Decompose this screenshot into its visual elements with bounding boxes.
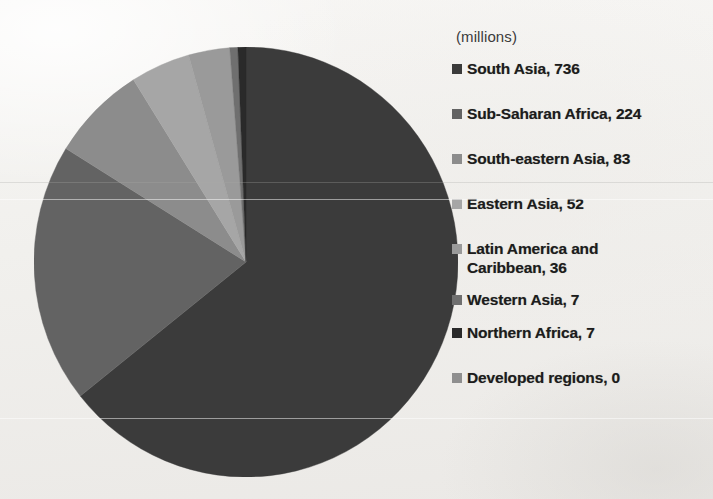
legend-item-south-asia[interactable]: South Asia, 736 bbox=[452, 60, 713, 79]
legend-units-label: (millions) bbox=[456, 28, 713, 45]
legend-item-label: Developed regions, 0 bbox=[467, 369, 620, 388]
legend-item-label: Eastern Asia, 52 bbox=[467, 195, 584, 214]
legend-swatch-icon bbox=[452, 109, 462, 119]
legend-swatch-icon bbox=[452, 244, 462, 254]
chart-legend: (millions) South Asia, 736Sub-Saharan Af… bbox=[452, 28, 713, 388]
legend-swatch-icon bbox=[452, 199, 462, 209]
legend-item-eastern-asia[interactable]: Eastern Asia, 52 bbox=[452, 195, 713, 214]
legend-rows: South Asia, 736Sub-Saharan Africa, 224So… bbox=[452, 60, 713, 388]
pie-chart-page: (millions) South Asia, 736Sub-Saharan Af… bbox=[0, 0, 713, 499]
legend-swatch-icon bbox=[452, 64, 462, 74]
legend-swatch-icon bbox=[452, 295, 462, 305]
legend-item-sub-saharan-africa[interactable]: Sub-Saharan Africa, 224 bbox=[452, 105, 713, 124]
legend-swatch-icon bbox=[452, 373, 462, 383]
legend-item-latin-america-and-caribbean[interactable]: Latin America and Caribbean, 36 bbox=[452, 240, 713, 278]
legend-item-label: Western Asia, 7 bbox=[467, 291, 579, 310]
pie-slices bbox=[34, 47, 458, 477]
legend-item-northern-africa[interactable]: Northern Africa, 7 bbox=[452, 324, 713, 343]
legend-item-developed-regions[interactable]: Developed regions, 0 bbox=[452, 369, 713, 388]
legend-swatch-icon bbox=[452, 154, 462, 164]
legend-item-label: Northern Africa, 7 bbox=[467, 324, 595, 343]
legend-item-label: South Asia, 736 bbox=[467, 60, 580, 79]
legend-item-label: Latin America and Caribbean, 36 bbox=[467, 240, 598, 278]
legend-item-label: South-eastern Asia, 83 bbox=[467, 150, 630, 169]
pie-svg bbox=[34, 47, 458, 477]
pie-chart bbox=[34, 47, 458, 477]
legend-item-south-eastern-asia[interactable]: South-eastern Asia, 83 bbox=[452, 150, 713, 169]
legend-item-western-asia[interactable]: Western Asia, 7 bbox=[452, 291, 713, 310]
legend-swatch-icon bbox=[452, 328, 462, 338]
legend-item-label: Sub-Saharan Africa, 224 bbox=[467, 105, 641, 124]
chart-area bbox=[0, 0, 470, 499]
